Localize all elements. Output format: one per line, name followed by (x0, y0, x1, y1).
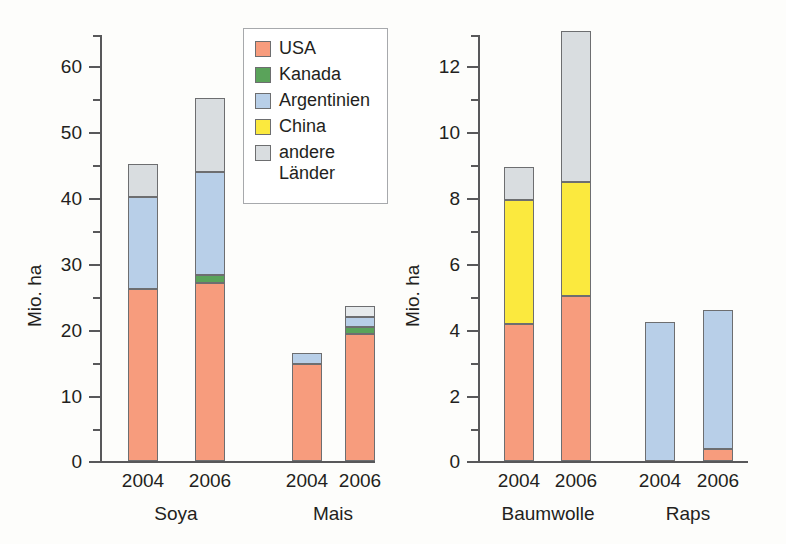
bar-raps-2006 (703, 310, 733, 461)
segment-usa (561, 296, 591, 461)
left-group-label-mais: Mais (298, 503, 368, 525)
left-chart-panel: 60 50 40 30 20 10 0 Mio. ha (0, 0, 400, 544)
left-ytick-label-40: 40 (30, 189, 82, 208)
segment-usa (703, 449, 733, 461)
left-ytick-20 (89, 330, 100, 332)
right-ytick-4 (467, 330, 478, 332)
legend-swatch-china (255, 119, 271, 135)
segment-usa (345, 334, 375, 461)
right-xtick-label-raps-2006: 2006 (683, 470, 753, 492)
segment-china (504, 200, 534, 324)
right-ytick-label-8: 8 (408, 189, 460, 208)
segment-argentinien (128, 197, 158, 289)
segment-andere (345, 306, 375, 317)
legend-label-andere-laender: andere Länder (279, 142, 335, 184)
bar-soya-2004 (128, 164, 158, 461)
left-ytick-label-60: 60 (30, 57, 82, 76)
left-ytick-10 (89, 396, 100, 398)
left-group-label-soya: Soya (141, 503, 211, 525)
bar-raps-2004 (645, 322, 675, 461)
bar-mais-2006 (345, 306, 375, 461)
legend-item-argentinien: Argentinien (255, 90, 387, 111)
legend-swatch-kanada (255, 67, 271, 83)
left-ytick-5 (93, 429, 100, 431)
right-ytick-8 (467, 198, 478, 200)
segment-andere (128, 164, 158, 197)
left-ytick-65 (93, 35, 100, 37)
chart-page: 60 50 40 30 20 10 0 Mio. ha (0, 0, 786, 544)
right-ytick-5 (471, 297, 478, 299)
right-ytick-1 (471, 429, 478, 431)
segment-argentinien (645, 322, 675, 461)
left-ytick-30 (89, 264, 100, 266)
segment-china (561, 182, 591, 296)
segment-andere (561, 31, 591, 182)
right-chart-panel: 12 10 8 6 4 2 0 Mio. ha 2004 2006 (400, 0, 786, 544)
legend-swatch-usa (255, 41, 271, 57)
left-ytick-50 (89, 132, 100, 134)
left-xtick-label-soya-2004: 2004 (108, 470, 178, 492)
legend-swatch-andere-laender (255, 145, 271, 161)
legend-item-kanada: Kanada (255, 64, 387, 85)
bar-mais-2004 (292, 353, 322, 461)
right-ytick-11 (471, 99, 478, 101)
right-ytick-12 (467, 66, 478, 68)
right-xtick-label-baumwolle-2006: 2006 (541, 470, 611, 492)
bar-soya-2006 (195, 98, 225, 461)
left-ytick-55 (93, 99, 100, 101)
left-ytick-60 (89, 66, 100, 68)
right-ytick-label-12: 12 (408, 57, 460, 76)
right-ytick-7 (471, 231, 478, 233)
legend-item-china: China (255, 116, 387, 137)
right-group-label-baumwolle: Baumwolle (492, 503, 604, 525)
segment-usa (128, 289, 158, 461)
right-ytick-label-2: 2 (408, 387, 460, 406)
segment-argentinien (703, 310, 733, 449)
left-ytick-label-50: 50 (30, 123, 82, 142)
legend-label-argentinien: Argentinien (279, 90, 370, 111)
left-xtick-label-soya-2006: 2006 (175, 470, 245, 492)
left-y-axis (100, 35, 102, 463)
right-ytick-6 (467, 264, 478, 266)
legend-label-china: China (279, 116, 326, 137)
segment-kanada (195, 275, 225, 283)
left-ytick-25 (93, 297, 100, 299)
left-y-axis-title: Mio. ha (24, 265, 46, 327)
segment-andere (195, 98, 225, 172)
left-xtick-label-mais-2006: 2006 (325, 470, 395, 492)
left-ytick-40 (89, 198, 100, 200)
right-x-axis (478, 461, 748, 463)
segment-argentinien (292, 353, 322, 364)
right-group-label-raps: Raps (653, 503, 723, 525)
right-ytick-label-0: 0 (408, 452, 460, 471)
segment-usa (195, 283, 225, 461)
segment-usa (292, 364, 322, 461)
left-ytick-label-10: 10 (30, 387, 82, 406)
right-y-axis-title: Mio. ha (402, 265, 424, 327)
legend-label-kanada: Kanada (279, 64, 341, 85)
legend-label-usa: USA (279, 38, 316, 59)
segment-kanada (345, 327, 375, 334)
bar-baumwolle-2004 (504, 167, 534, 461)
segment-usa (504, 324, 534, 461)
left-x-axis (100, 461, 375, 463)
left-ytick-15 (93, 363, 100, 365)
segment-argentinien (345, 317, 375, 327)
right-ytick-0 (467, 461, 478, 463)
segment-argentinien (195, 172, 225, 275)
legend-item-andere-laender: andere Länder (255, 142, 387, 184)
legend-item-usa: USA (255, 38, 387, 59)
legend: USA Kanada Argentinien China andere Länd… (243, 28, 388, 204)
bar-baumwolle-2006 (561, 31, 591, 461)
right-ytick-label-10: 10 (408, 123, 460, 142)
segment-andere (504, 167, 534, 200)
left-ytick-35 (93, 231, 100, 233)
right-ytick-2 (467, 396, 478, 398)
right-ytick-9 (471, 165, 478, 167)
right-ytick-3 (471, 363, 478, 365)
right-ytick-10 (467, 132, 478, 134)
left-ytick-0 (89, 461, 100, 463)
left-ytick-label-0: 0 (30, 452, 82, 471)
legend-swatch-argentinien (255, 93, 271, 109)
right-ytick-13 (471, 35, 478, 37)
